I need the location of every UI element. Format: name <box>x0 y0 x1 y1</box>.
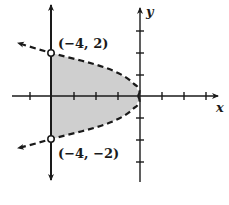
region-graph: (−4, 2) (−4, −2) y x <box>0 0 229 205</box>
point-neg4-neg2-open-circle <box>48 136 54 142</box>
point-label-lower: (−4, −2) <box>58 146 119 161</box>
point-label-upper: (−4, 2) <box>58 36 108 51</box>
point-neg4-2-open-circle <box>48 50 54 56</box>
x-axis-label: x <box>215 100 224 115</box>
y-axis-label: y <box>145 4 155 19</box>
